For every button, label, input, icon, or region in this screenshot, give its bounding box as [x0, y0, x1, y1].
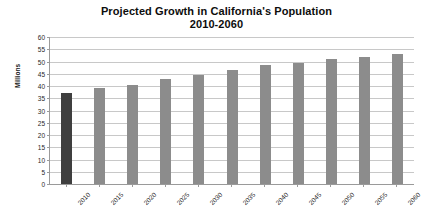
y-tick-label: 55	[38, 46, 45, 53]
chart-title-line-1: Projected Growth in California's Populat…	[101, 5, 332, 17]
bar-2040	[260, 65, 271, 184]
y-tick-mark	[47, 147, 50, 148]
y-tick-mark	[47, 123, 50, 124]
bar-2045	[293, 63, 304, 184]
y-tick-label: 0	[41, 181, 45, 188]
chart-title-line-2: 2010-2060	[0, 18, 433, 31]
bar-2060	[392, 54, 403, 184]
x-tick-label-2020: 2020	[142, 191, 157, 206]
x-tick-label-2025: 2025	[175, 191, 190, 206]
y-tick-label: 25	[38, 119, 45, 126]
y-tick-mark	[47, 74, 50, 75]
y-tick-mark	[47, 160, 50, 161]
y-tick-mark	[47, 172, 50, 173]
x-tick-mark	[165, 185, 166, 187]
bar-2025	[160, 79, 171, 184]
y-tick-label: 45	[38, 70, 45, 77]
y-axis-title: Millions	[14, 46, 21, 106]
bar-chart: Projected Growth in California's Populat…	[0, 0, 433, 216]
bar-2050	[326, 59, 337, 184]
x-tick-mark	[132, 185, 133, 187]
y-tick-label: 15	[38, 144, 45, 151]
gridline	[50, 49, 414, 50]
bar-2030	[193, 75, 204, 184]
x-tick-mark	[396, 185, 397, 187]
y-tick-mark	[47, 49, 50, 50]
y-tick-mark	[47, 86, 50, 87]
y-tick-label: 60	[38, 34, 45, 41]
x-tick-label-2045: 2045	[307, 191, 322, 206]
bar-2020	[127, 85, 138, 184]
bar-2055	[359, 57, 370, 184]
x-axis: 2010201520202025203020352040204520502055…	[49, 185, 413, 216]
x-tick-label-2015: 2015	[109, 191, 124, 206]
x-tick-mark	[264, 185, 265, 187]
plot-area: 051015202530354045505560	[49, 37, 414, 184]
y-tick-label: 50	[38, 58, 45, 65]
x-tick-label-2035: 2035	[241, 191, 256, 206]
y-tick-label: 40	[38, 83, 45, 90]
x-tick-label-2040: 2040	[274, 191, 289, 206]
bar-2015	[94, 88, 105, 184]
y-tick-label: 35	[38, 95, 45, 102]
y-tick-mark	[47, 135, 50, 136]
bar-2010	[61, 93, 72, 184]
x-tick-mark	[231, 185, 232, 187]
y-tick-mark	[47, 98, 50, 99]
x-tick-label-2060: 2060	[407, 191, 422, 206]
x-tick-mark	[66, 185, 67, 187]
x-tick-mark	[99, 185, 100, 187]
x-tick-label-2030: 2030	[208, 191, 223, 206]
x-tick-mark	[330, 185, 331, 187]
gridline	[50, 37, 414, 38]
x-tick-label-2010: 2010	[76, 191, 91, 206]
chart-title: Projected Growth in California's Populat…	[0, 5, 433, 31]
y-tick-mark	[47, 62, 50, 63]
x-tick-mark	[363, 185, 364, 187]
y-tick-label: 5	[41, 168, 45, 175]
x-tick-label-2055: 2055	[374, 191, 389, 206]
x-tick-mark	[198, 185, 199, 187]
y-tick-label: 10	[38, 156, 45, 163]
y-tick-label: 30	[38, 107, 45, 114]
y-tick-mark	[47, 111, 50, 112]
x-tick-label-2050: 2050	[341, 191, 356, 206]
y-tick-label: 20	[38, 132, 45, 139]
y-tick-mark	[47, 37, 50, 38]
x-tick-mark	[297, 185, 298, 187]
bar-2035	[227, 70, 238, 184]
